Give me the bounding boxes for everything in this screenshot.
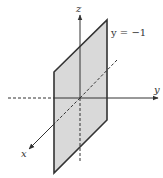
plane-equation-label: y = −1 xyxy=(110,27,146,38)
y-axis-label: y xyxy=(153,84,160,95)
x-axis xyxy=(29,124,54,149)
z-axis-label: z xyxy=(75,3,82,14)
plane-diagram: z y x y = −1 xyxy=(0,0,163,178)
x-axis-label: x xyxy=(21,148,27,159)
